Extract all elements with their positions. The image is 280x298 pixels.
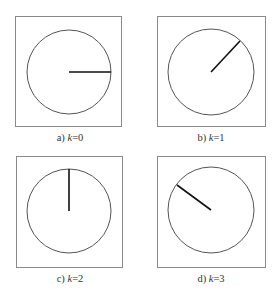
caption-value: =3 [213, 273, 224, 284]
caption-prefix: d) [197, 273, 206, 284]
panel-d-caption: d) k=3 [186, 273, 236, 284]
panel-d-dial [0, 0, 280, 298]
radius-hand [177, 185, 211, 210]
